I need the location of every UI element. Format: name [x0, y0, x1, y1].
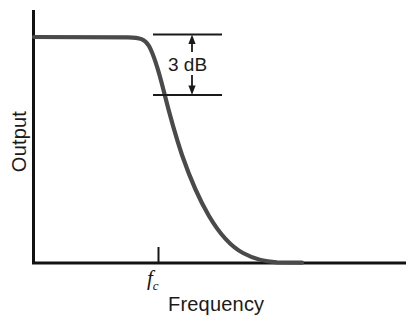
response-curve	[34, 37, 302, 263]
filter-response-figure: Output Frequency 3 dB fc	[0, 0, 416, 322]
db-down-arrow-head	[188, 86, 195, 96]
plot-canvas	[0, 0, 416, 322]
db-up-arrow-head	[188, 35, 195, 45]
